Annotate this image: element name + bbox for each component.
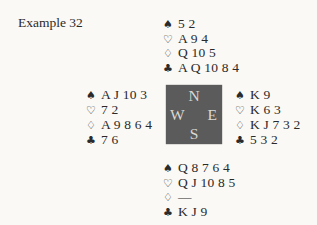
- club-icon: ♣: [235, 134, 250, 147]
- north-spades-row: ♠ 5 2: [163, 16, 239, 31]
- diamond-icon: ♢: [163, 47, 178, 60]
- west-clubs-cards: 7 6: [101, 132, 118, 148]
- west-clubs-row: ♣ 7 6: [86, 132, 152, 147]
- compass-west-label: W: [170, 107, 185, 123]
- east-diamonds-cards: K J 7 3 2: [250, 117, 301, 133]
- west-spades-row: ♠ A J 10 3: [86, 87, 152, 102]
- east-spades-row: ♠ K 9: [235, 87, 301, 102]
- compass-south-label: S: [190, 126, 199, 142]
- spade-icon: ♠: [163, 162, 178, 175]
- diamond-icon: ♢: [86, 119, 101, 132]
- west-diamonds-row: ♢ A 9 8 6 4: [86, 117, 152, 132]
- west-diamonds-cards: A 9 8 6 4: [101, 117, 152, 133]
- compass-north-label: N: [188, 88, 199, 104]
- east-hearts-row: ♡ K 6 3: [235, 102, 301, 117]
- north-hand: ♠ 5 2 ♡ A 9 4 ♢ Q 10 5 ♣ A Q 10 8 4: [163, 16, 239, 74]
- heart-icon: ♡: [86, 104, 101, 117]
- east-hearts-cards: K 6 3: [250, 102, 281, 118]
- east-spades-cards: K 9: [250, 87, 270, 103]
- bridge-deal-page: Example 32 ♠ 5 2 ♡ A 9 4 ♢ Q 10 5 ♣ A Q …: [0, 0, 317, 225]
- east-hand: ♠ K 9 ♡ K 6 3 ♢ K J 7 3 2 ♣ 5 3 2: [235, 87, 301, 147]
- south-diamonds-row: ♢ —: [163, 189, 236, 204]
- east-clubs-cards: 5 3 2: [250, 132, 278, 148]
- diamond-icon: ♢: [163, 191, 178, 204]
- example-title: Example 32: [18, 16, 83, 31]
- west-spades-cards: A J 10 3: [101, 87, 147, 103]
- north-clubs-cards: A Q 10 8 4: [178, 60, 239, 76]
- compass-east-label: E: [208, 107, 217, 123]
- west-hand: ♠ A J 10 3 ♡ 7 2 ♢ A 9 8 6 4 ♣ 7 6: [86, 87, 152, 147]
- spade-icon: ♠: [86, 89, 101, 102]
- south-spades-row: ♠ Q 8 7 6 4: [163, 160, 236, 175]
- west-hearts-cards: 7 2: [101, 102, 118, 118]
- south-hearts-row: ♡ Q J 10 8 5: [163, 175, 236, 190]
- club-icon: ♣: [163, 62, 178, 75]
- diamond-icon: ♢: [235, 119, 250, 132]
- north-hearts-row: ♡ A 9 4: [163, 31, 239, 46]
- spade-icon: ♠: [235, 89, 250, 102]
- south-clubs-row: ♣ K J 9: [163, 204, 236, 219]
- east-clubs-row: ♣ 5 3 2: [235, 132, 301, 147]
- north-clubs-row: ♣ A Q 10 8 4: [163, 60, 239, 75]
- spade-icon: ♠: [163, 18, 178, 31]
- north-diamonds-row: ♢ Q 10 5: [163, 45, 239, 60]
- west-hearts-row: ♡ 7 2: [86, 102, 152, 117]
- compass-diagram: N W E S: [166, 85, 222, 144]
- south-clubs-cards: K J 9: [178, 204, 208, 220]
- club-icon: ♣: [86, 134, 101, 147]
- heart-icon: ♡: [235, 104, 250, 117]
- east-diamonds-row: ♢ K J 7 3 2: [235, 117, 301, 132]
- heart-icon: ♡: [163, 177, 178, 190]
- heart-icon: ♡: [163, 33, 178, 46]
- club-icon: ♣: [163, 206, 178, 219]
- south-hand: ♠ Q 8 7 6 4 ♡ Q J 10 8 5 ♢ — ♣ K J 9: [163, 160, 236, 218]
